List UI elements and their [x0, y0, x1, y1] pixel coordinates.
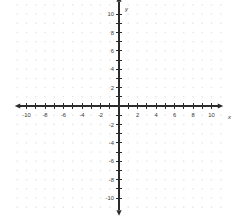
grid-dot: [127, 206, 129, 208]
grid-dot: [72, 133, 74, 135]
grid-dot: [16, 179, 18, 181]
grid-dot: [35, 87, 37, 89]
grid-dot: [100, 78, 102, 80]
grid-dot: [174, 170, 176, 172]
grid-dot: [146, 206, 148, 208]
grid-dot: [174, 87, 176, 89]
grid-dot: [44, 197, 46, 199]
grid-dot: [201, 114, 203, 116]
grid-dot: [137, 170, 139, 172]
grid-dot: [63, 151, 65, 153]
grid-dot: [174, 50, 176, 52]
grid-dot: [16, 22, 18, 24]
grid-dot: [90, 170, 92, 172]
grid-dot: [155, 133, 157, 135]
grid-dot: [26, 188, 28, 190]
grid-dot: [211, 4, 213, 6]
grid-dot: [155, 78, 157, 80]
grid-dot: [201, 87, 203, 89]
grid-dot: [44, 32, 46, 34]
grid-dot: [146, 142, 148, 144]
grid-dot: [109, 4, 111, 6]
grid-dot: [72, 197, 74, 199]
grid-dot: [137, 179, 139, 181]
y-axis-label: y: [124, 6, 129, 12]
grid-dot: [63, 22, 65, 24]
grid-dot: [16, 133, 18, 135]
grid-dot: [35, 22, 37, 24]
grid-dot: [53, 114, 55, 116]
grid-dot: [192, 22, 194, 24]
grid-dot: [53, 151, 55, 153]
grid-dot: [192, 142, 194, 144]
grid-dot: [35, 32, 37, 34]
grid-dot: [90, 59, 92, 61]
grid-dot: [16, 96, 18, 98]
grid-dot: [155, 87, 157, 89]
grid-dot: [183, 151, 185, 153]
grid-dot: [192, 50, 194, 52]
grid-dot: [201, 124, 203, 126]
grid-dot: [63, 4, 65, 6]
grid-dot: [72, 78, 74, 80]
x-axis-arrow-left: [15, 103, 21, 108]
grid-dot: [44, 142, 46, 144]
grid-dot: [183, 142, 185, 144]
grid-dot: [146, 13, 148, 15]
x-axis-tick-label: -8: [42, 112, 47, 118]
grid-dot: [16, 160, 18, 162]
grid-dot: [146, 68, 148, 70]
grid-dot: [192, 188, 194, 190]
grid-dot: [183, 179, 185, 181]
grid-dot: [109, 114, 111, 116]
grid-dot: [127, 151, 129, 153]
x-axis-tick-label: -2: [98, 112, 103, 118]
grid-dot: [81, 50, 83, 52]
grid-dot: [100, 133, 102, 135]
grid-dot: [146, 32, 148, 34]
grid-dot: [220, 68, 222, 70]
grid-dot: [174, 151, 176, 153]
grid-dot: [183, 78, 185, 80]
grid-dot: [53, 188, 55, 190]
grid-dot: [183, 124, 185, 126]
grid-dot: [35, 78, 37, 80]
grid-dot: [164, 59, 166, 61]
grid-dot: [211, 87, 213, 89]
grid-dot: [63, 142, 65, 144]
grid-dot: [201, 32, 203, 34]
grid-dot: [16, 142, 18, 144]
grid-dot: [211, 68, 213, 70]
grid-dot: [137, 151, 139, 153]
grid-dot: [26, 50, 28, 52]
grid-dot: [137, 133, 139, 135]
grid-dot: [220, 96, 222, 98]
grid-dot: [26, 41, 28, 43]
grid-dot: [90, 50, 92, 52]
grid-dot: [211, 133, 213, 135]
grid-dot: [35, 188, 37, 190]
grid-dot: [35, 50, 37, 52]
grid-dot: [146, 50, 148, 52]
grid-dot: [164, 87, 166, 89]
grid-dot: [109, 151, 111, 153]
coordinate-plane: -10-8-6-4-2246810108642-2-4-6-8-10 x y: [0, 0, 242, 223]
grid-dot: [183, 160, 185, 162]
grid-dot: [63, 133, 65, 135]
grid-dot: [35, 179, 37, 181]
grid-dot: [63, 124, 65, 126]
grid-dot: [211, 41, 213, 43]
grid-dot: [72, 13, 74, 15]
grid-dot: [146, 170, 148, 172]
grid-dot: [220, 206, 222, 208]
grid-dot: [16, 206, 18, 208]
grid-dot: [90, 96, 92, 98]
grid-dot: [192, 151, 194, 153]
grid-dot: [35, 124, 37, 126]
grid-dot: [211, 142, 213, 144]
grid-dot: [81, 160, 83, 162]
grid-dot: [164, 22, 166, 24]
grid-dot: [164, 170, 166, 172]
grid-dot: [44, 4, 46, 6]
grid-dot: [192, 96, 194, 98]
